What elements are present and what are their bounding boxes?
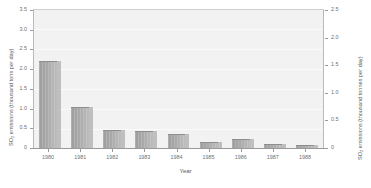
- y-tick-left-3.0: 3.0: [7, 27, 27, 32]
- bar-top-edge: [71, 107, 89, 108]
- y-axis-right-title: SO₂ emissions (thousand tonnes per day): [358, 56, 364, 160]
- y-tick-mark-left: [30, 10, 33, 11]
- x-axis-line: [33, 148, 325, 149]
- x-tick-1988: 1988: [288, 155, 322, 160]
- bar-body: [103, 130, 121, 148]
- x-tick-1984: 1984: [160, 155, 194, 160]
- x-tick-mark: [305, 149, 306, 152]
- bar-1983: [135, 10, 153, 148]
- bar-top-edge: [168, 134, 186, 135]
- y-tick-mark-left: [30, 128, 33, 129]
- y-tick-left-1.5: 1.5: [7, 86, 27, 91]
- x-tick-mark: [177, 149, 178, 152]
- y-tick-mark-right: [325, 65, 328, 66]
- bar-top-edge: [103, 130, 121, 131]
- x-tick-mark: [112, 149, 113, 152]
- x-tick-1980: 1980: [31, 155, 65, 160]
- x-tick-1981: 1981: [63, 155, 97, 160]
- x-tick-mark: [48, 149, 49, 152]
- x-tick-1985: 1985: [192, 155, 226, 160]
- y-tick-left-0.5: 0.5: [7, 125, 27, 130]
- y-tick-right-0.5: 0.5: [331, 117, 353, 122]
- y-tick-mark-left: [30, 30, 33, 31]
- bar-1982: [103, 10, 121, 148]
- y-tick-left-3.5: 3.5: [7, 7, 27, 12]
- y-tick-right-0: 0: [331, 145, 353, 150]
- x-tick-1986: 1986: [224, 155, 258, 160]
- bar-1986: [232, 10, 250, 148]
- bar-body: [135, 131, 153, 148]
- x-tick-1983: 1983: [127, 155, 161, 160]
- y-tick-mark-right: [325, 120, 328, 121]
- y-tick-mark-right: [325, 10, 328, 11]
- x-tick-mark: [241, 149, 242, 152]
- y-tick-right-1.0: 1.0: [331, 90, 353, 95]
- bar-1984: [168, 10, 186, 148]
- x-tick-mark: [209, 149, 210, 152]
- x-tick-1987: 1987: [256, 155, 290, 160]
- y-tick-mark-left: [30, 148, 33, 149]
- x-tick-mark: [273, 149, 274, 152]
- x-tick-mark: [144, 149, 145, 152]
- y-tick-mark-right: [325, 38, 328, 39]
- bar-top-edge: [232, 139, 250, 140]
- y-tick-mark-left: [30, 89, 33, 90]
- y-tick-left-1.0: 1.0: [7, 106, 27, 111]
- bar-top-edge: [200, 142, 218, 143]
- bar-top-edge: [264, 144, 282, 145]
- bar-top-edge: [135, 131, 153, 132]
- bar-1985: [200, 10, 218, 148]
- y-tick-right-2.5: 2.5: [331, 7, 353, 12]
- y-tick-mark-right: [325, 93, 328, 94]
- bar-1988: [296, 10, 314, 148]
- bar-body: [39, 61, 57, 148]
- bar-1981: [71, 10, 89, 148]
- x-tick-1982: 1982: [95, 155, 129, 160]
- x-axis-title: Year: [0, 168, 371, 174]
- y-tick-mark-right: [325, 148, 328, 149]
- y-tick-right-2.0: 2.0: [331, 35, 353, 40]
- bar-body: [232, 139, 250, 148]
- bar-top-edge: [296, 145, 314, 146]
- bar-body: [71, 107, 89, 148]
- y-tick-right-1.5: 1.5: [331, 62, 353, 67]
- bar-1987: [264, 10, 282, 148]
- bar-series: [34, 10, 323, 148]
- y-tick-mark-left: [30, 49, 33, 50]
- bar-top-edge: [39, 61, 57, 62]
- y-tick-mark-left: [30, 109, 33, 110]
- y-tick-left-2.0: 2.0: [7, 66, 27, 71]
- y-axis-left-title: SO₂ emissions (thousand tons per day): [9, 49, 15, 146]
- y-tick-left-2.5: 2.5: [7, 46, 27, 51]
- y-tick-mark-left: [30, 69, 33, 70]
- y-tick-left-0: 0: [7, 145, 27, 150]
- so2-emissions-bar-chart: SO₂ emissions (thousand tons per day) SO…: [0, 0, 371, 188]
- bar-1980: [39, 10, 57, 148]
- x-tick-mark: [80, 149, 81, 152]
- bar-body: [168, 134, 186, 148]
